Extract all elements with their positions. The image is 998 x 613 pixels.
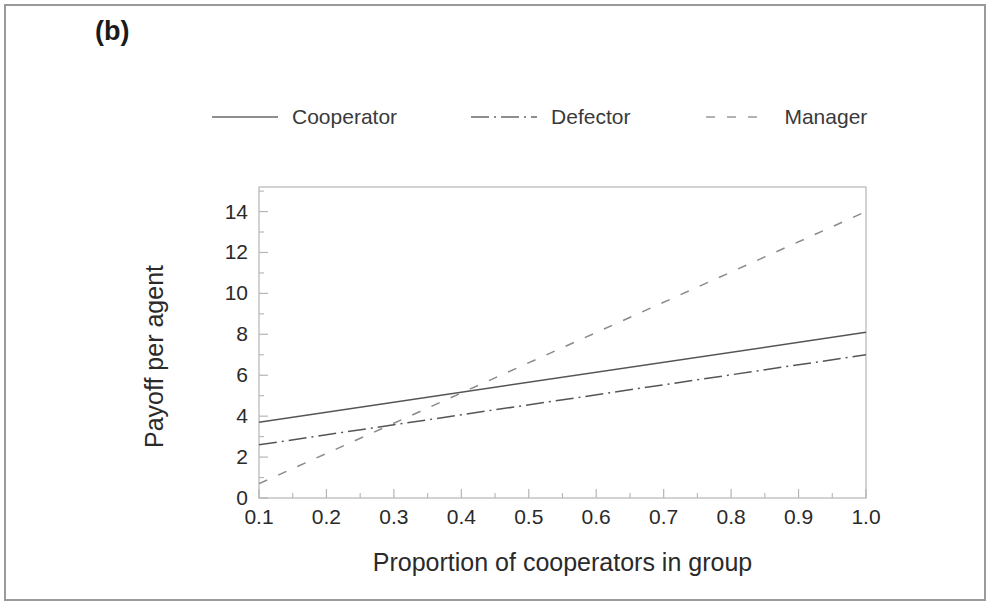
x-tick-label: 0.6 [566, 505, 626, 529]
x-tick-label: 0.8 [701, 505, 761, 529]
x-tick-label: 0.1 [229, 505, 289, 529]
figure-panel-b: (b) Cooperator Defector Manager [0, 0, 998, 613]
x-tick-label: 0.2 [296, 505, 356, 529]
y-tick-label: 4 [204, 404, 248, 428]
x-axis-minor-ticks [293, 493, 833, 498]
y-tick-label: 10 [204, 281, 248, 305]
x-axis-title: Proportion of cooperators in group [259, 548, 866, 577]
series-line-cooperator [259, 332, 866, 422]
y-axis-title: Payoff per agent [140, 197, 169, 517]
x-tick-label: 0.9 [769, 505, 829, 529]
series-line-manager [259, 212, 866, 484]
y-tick-label: 2 [204, 445, 248, 469]
plot-area-wrapper: 02468101214 0.10.20.30.40.50.60.70.80.91… [0, 0, 998, 613]
x-tick-label: 0.7 [634, 505, 694, 529]
x-tick-label: 0.5 [499, 505, 559, 529]
y-tick-label: 12 [204, 240, 248, 264]
series-line-defector [259, 355, 866, 445]
data-series-group [259, 212, 866, 484]
x-tick-label: 1.0 [836, 505, 896, 529]
plot-frame [259, 187, 866, 498]
y-tick-label: 14 [204, 200, 248, 224]
x-tick-label: 0.3 [364, 505, 424, 529]
y-tick-label: 8 [204, 322, 248, 346]
x-tick-label: 0.4 [431, 505, 491, 529]
y-tick-label: 6 [204, 363, 248, 387]
